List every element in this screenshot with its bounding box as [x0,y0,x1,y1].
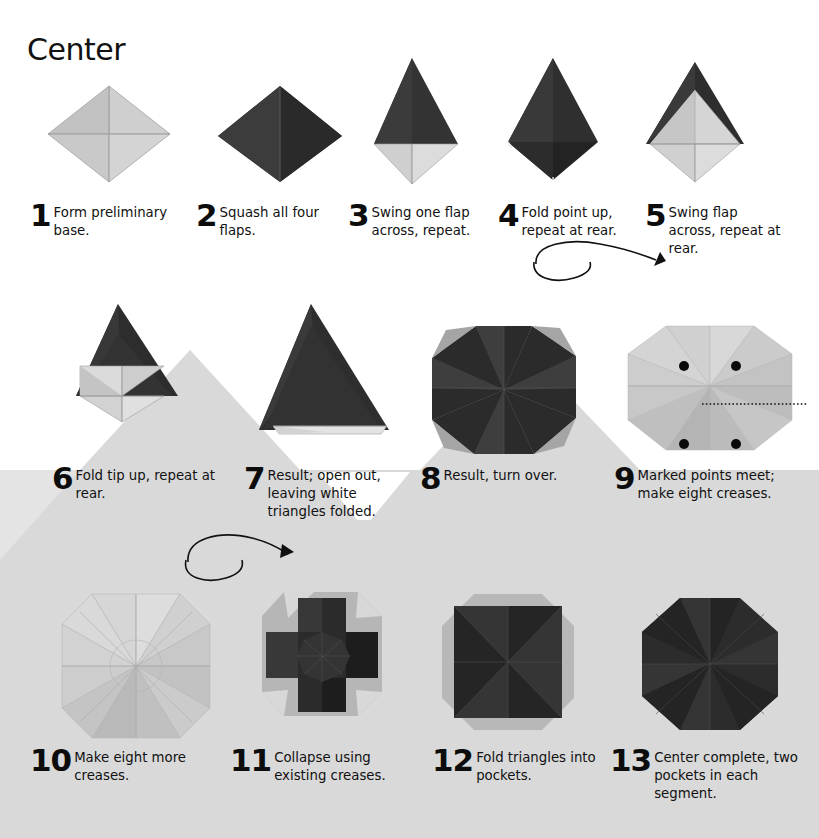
step-4: 4 Fold point up, repeat at rear. [498,203,640,240]
marked-point [679,361,689,371]
figure-step-3 [362,58,462,184]
step-number: 6 [52,466,73,491]
step-number: 8 [420,466,441,491]
step-11: 11 Collapse using existing creases. [230,748,424,785]
step-caption: Collapse using existing creases. [271,748,424,785]
step-number: 9 [614,466,635,491]
figure-step-10 [60,592,212,740]
step-2: 2 Squash all four flaps. [196,203,338,240]
step-6: 6 Fold tip up, repeat at rear. [52,466,226,503]
step-caption: Fold tip up, repeat at rear. [73,466,226,503]
figure-step-6 [72,304,184,422]
step-caption: Form preliminary base. [51,203,172,240]
step-12: 12 Fold triangles into pockets. [432,748,626,785]
page-title: Center [27,32,125,67]
step-caption: Result; open out, leaving white triangle… [265,466,418,520]
figure-step-4 [500,58,606,180]
step-7: 7 Result; open out, leaving white triang… [244,466,418,520]
origami-instruction-page: Center [0,0,819,838]
figure-step-13 [640,596,780,732]
step-caption: Marked points meet; make eight creases. [635,466,788,503]
step-1: 1 Form preliminary base. [30,203,172,240]
step-number: 4 [498,203,519,228]
step-9: 9 Marked points meet; make eight creases… [614,466,788,503]
step-number: 7 [244,466,265,491]
step-caption: Swing one flap across, repeat. [369,203,490,240]
marked-point [679,439,689,449]
figure-step-8 [428,322,580,458]
step-number: 13 [610,748,651,773]
step-number: 2 [196,203,217,228]
step-caption: Result, turn over. [441,466,594,485]
figure-step-5 [640,62,750,182]
figure-step-11 [258,588,386,720]
marked-point [731,361,741,371]
step-10: 10 Make eight more creases. [30,748,224,785]
step-caption: Fold triangles into pockets. [473,748,626,785]
figure-step-1 [48,86,170,182]
figure-step-2 [218,86,342,182]
step-caption: Make eight more creases. [71,748,224,785]
marked-point [731,439,741,449]
step-caption: Center complete, two pockets in each seg… [651,748,804,802]
step-number: 12 [432,748,473,773]
figure-step-7 [255,304,395,436]
turn-over-arrow-icon [528,238,668,284]
step-caption: Fold point up, repeat at rear. [519,203,640,240]
step-number: 10 [30,748,71,773]
step-number: 11 [230,748,271,773]
step-3: 3 Swing one flap across, repeat. [348,203,490,240]
step-8: 8 Result, turn over. [420,466,594,491]
turn-over-arrow-icon-2 [178,528,298,584]
step-13: 13 Center complete, two pockets in each … [610,748,804,802]
step-number: 5 [645,203,666,228]
figure-step-12 [440,592,576,732]
step-caption: Swing flap across, repeat at rear. [666,203,787,257]
step-number: 3 [348,203,369,228]
step-number: 1 [30,203,51,228]
figure-step-9 [626,324,794,456]
step-caption: Squash all four flaps. [217,203,338,240]
